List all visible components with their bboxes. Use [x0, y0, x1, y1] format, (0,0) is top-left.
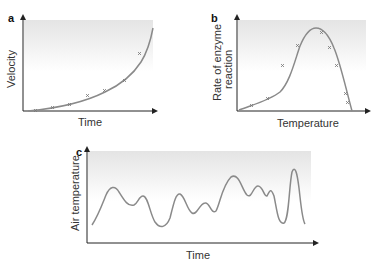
- panel-a: a Time Velocity: [5, 12, 155, 128]
- x-axis-label: Temperature: [277, 117, 339, 129]
- y-axis-label: Velocity: [5, 50, 17, 88]
- y-axis-label-line2: reaction: [222, 50, 234, 89]
- figure: a Time Velocity b Temperature Rate of en…: [0, 0, 375, 263]
- shaded-region: [238, 20, 366, 72]
- y-axis-label: Air temperature: [69, 155, 81, 231]
- y-axis-label: Rate of enzyme reaction: [211, 24, 234, 101]
- panel-c: c Time Air temperature: [69, 146, 316, 261]
- panel-letter: a: [8, 12, 15, 24]
- panel-b: b Temperature Rate of enzyme reaction: [211, 12, 368, 129]
- shaded-region: [88, 151, 311, 201]
- x-axis-label: Time: [186, 249, 210, 261]
- shaded-region: [24, 20, 153, 72]
- panel-letter: b: [211, 12, 218, 24]
- x-axis-label: Time: [78, 116, 102, 128]
